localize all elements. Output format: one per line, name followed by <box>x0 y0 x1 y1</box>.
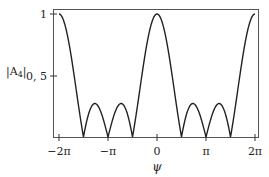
data-curve <box>59 14 255 137</box>
xtick-label: π <box>202 145 209 158</box>
y-tick-labels: 1 0, 5 <box>26 8 47 83</box>
ytick-label: 0, 5 <box>26 70 47 83</box>
y-axis-label: |A4| <box>6 65 26 79</box>
xtick-label: 2π <box>248 145 262 158</box>
xtick-label: −2π <box>47 145 70 158</box>
y-axis-label-end: | <box>23 65 27 79</box>
xtick-label: 0 <box>154 145 161 158</box>
xtick-label: −π <box>100 145 116 158</box>
x-tick-labels: −2π −π 0 π 2π <box>47 145 262 158</box>
ytick-label: 1 <box>40 8 47 21</box>
x-axis-label: ψ <box>152 160 162 174</box>
plot-frame <box>54 10 259 138</box>
chart: −2π −π 0 π 2π 1 0, 5 ψ |A4| <box>0 0 269 177</box>
